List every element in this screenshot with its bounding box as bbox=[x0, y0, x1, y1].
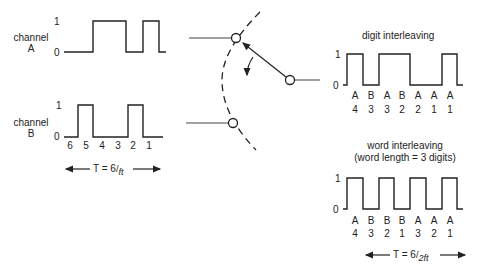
channel-period-label: T = 6/ft bbox=[93, 163, 123, 174]
channel-b-high-level: 1 bbox=[56, 100, 62, 111]
switch-arm bbox=[243, 43, 286, 77]
digit-channel: B bbox=[395, 90, 409, 102]
channel-a-label-line2: A bbox=[10, 43, 52, 54]
digit-position: 6 bbox=[63, 140, 77, 151]
digit-interleaving-high-level: 1 bbox=[335, 49, 341, 60]
word-channel: A bbox=[411, 215, 425, 227]
word-interleaving-title: word interleaving bbox=[340, 140, 470, 151]
word-channel: B bbox=[395, 215, 409, 227]
word-digit-number: 3 bbox=[364, 228, 378, 240]
channel-a-label-line1: channel bbox=[10, 32, 52, 43]
digit-interleaving-waveform bbox=[343, 54, 463, 85]
channel-b-waveform bbox=[64, 105, 163, 137]
commutator-arc bbox=[222, 12, 260, 150]
digit-channel: A bbox=[443, 90, 457, 102]
digit-channel: B bbox=[364, 90, 378, 102]
word-channel: A bbox=[348, 215, 362, 227]
digit-channel: A bbox=[380, 90, 394, 102]
word-digit-number: 3 bbox=[411, 228, 425, 240]
word-period-denominator: 2ft bbox=[418, 253, 428, 263]
channel-b-label: channel B bbox=[10, 117, 52, 139]
word-interleaving-low-level: 0 bbox=[333, 204, 339, 215]
period-prefix: T = 6 bbox=[93, 163, 116, 174]
digit-interleaving-title: digit interleaving bbox=[362, 30, 434, 41]
word-digit-number: 2 bbox=[427, 228, 441, 240]
digit-number: 2 bbox=[395, 104, 409, 116]
word-channel: A bbox=[427, 215, 441, 227]
channel-a-label: channel A bbox=[10, 32, 52, 54]
digit-position: 5 bbox=[79, 140, 93, 151]
channel-a-waveform bbox=[64, 21, 166, 52]
word-interleaving-subtitle: (word length = 3 digits) bbox=[340, 152, 470, 163]
word-digit-number: 4 bbox=[348, 228, 362, 240]
digit-channel: A bbox=[348, 90, 362, 102]
contact-b-icon bbox=[229, 119, 238, 128]
word-interleaving-waveform bbox=[343, 178, 463, 209]
switch-pivot-icon bbox=[286, 76, 295, 85]
rotation-arrow-icon bbox=[247, 57, 253, 75]
digit-number: 4 bbox=[348, 104, 362, 116]
digit-number: 1 bbox=[427, 104, 441, 116]
channel-b-label-line1: channel bbox=[10, 117, 52, 128]
word-channel: A bbox=[443, 215, 457, 227]
word-digit-number: 1 bbox=[443, 228, 457, 240]
digit-position: 3 bbox=[111, 140, 125, 151]
channel-a-high-level: 1 bbox=[54, 16, 60, 27]
period-denominator: ft bbox=[118, 167, 123, 177]
contact-a-icon bbox=[232, 34, 241, 43]
word-channel: B bbox=[380, 215, 394, 227]
digit-position: 2 bbox=[126, 140, 140, 151]
word-interleaving-high-level: 1 bbox=[335, 173, 341, 184]
digit-number: 2 bbox=[411, 104, 425, 116]
word-period-label: T = 6/2ft bbox=[393, 249, 428, 260]
digit-interleaving-low-level: 0 bbox=[333, 80, 339, 91]
channel-a-low-level: 0 bbox=[54, 47, 60, 58]
channel-b-label-line2: B bbox=[10, 128, 52, 139]
digit-number: 1 bbox=[443, 104, 457, 116]
digit-number: 3 bbox=[364, 104, 378, 116]
digit-channel: A bbox=[427, 90, 441, 102]
digit-position: 1 bbox=[142, 140, 156, 151]
word-digit-number: 2 bbox=[380, 228, 394, 240]
channel-b-low-level: 0 bbox=[54, 131, 60, 142]
word-digit-number: 1 bbox=[395, 228, 409, 240]
digit-position: 4 bbox=[95, 140, 109, 151]
digit-channel: A bbox=[411, 90, 425, 102]
digit-number: 3 bbox=[380, 104, 394, 116]
word-period-prefix: T = 6 bbox=[393, 249, 416, 260]
word-channel: B bbox=[364, 215, 378, 227]
